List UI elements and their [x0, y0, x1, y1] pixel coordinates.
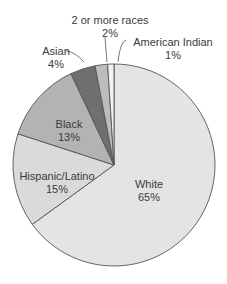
pct-american-indian: 1%: [165, 49, 181, 61]
label-american-indian: American Indian: [133, 36, 213, 48]
pct-white: 65%: [138, 191, 160, 203]
pct-two-more-races: 2%: [102, 27, 118, 39]
pct-black: 13%: [58, 131, 80, 143]
pct-hispanic-latino: 15%: [46, 183, 68, 195]
leader-line-american-indian: [118, 40, 126, 62]
label-black: Black: [56, 118, 83, 130]
pie-chart: 2 or more races 2% American Indian 1% As…: [0, 0, 227, 284]
pct-asian: 4%: [48, 58, 64, 70]
leader-line-two-more: [105, 37, 107, 62]
label-white: White: [135, 178, 163, 190]
label-asian: Asian: [42, 45, 70, 57]
label-hispanic-latino: Hispanic/Latino: [19, 170, 94, 182]
pie-slices: [13, 64, 215, 266]
label-two-more-races: 2 or more races: [71, 14, 149, 26]
